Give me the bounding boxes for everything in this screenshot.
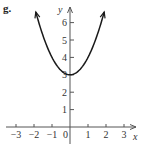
x-tick-label: 1 (86, 129, 91, 140)
y-tick-label: 6 (62, 17, 67, 28)
y-tick-label: 1 (62, 104, 67, 115)
y-axis-label: y (57, 4, 63, 15)
x-tick-label: 0 (63, 129, 68, 140)
x-tick-label: −3 (11, 129, 22, 140)
panel-label: g. (3, 2, 12, 14)
x-tick-label: −2 (29, 129, 40, 140)
x-tick-label: 3 (122, 129, 127, 140)
x-tick-label: −1 (47, 129, 58, 140)
y-tick-label: 5 (62, 35, 67, 46)
x-tick-label: 2 (104, 129, 109, 140)
y-tick-label: 4 (62, 52, 67, 63)
y-tick-label: 2 (62, 87, 67, 98)
x-axis-label: x (132, 131, 138, 142)
graph: g.xy−3−2−10123123456 (0, 0, 143, 144)
